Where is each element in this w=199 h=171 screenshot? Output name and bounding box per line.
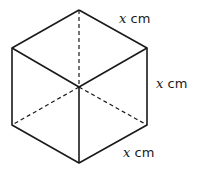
front-edge-left — [12, 48, 79, 87]
front-edge-right — [79, 48, 147, 87]
edge-label-right: x cm — [156, 77, 187, 90]
hidden-edge-left — [12, 87, 79, 125]
label-variable: x — [156, 76, 163, 91]
label-unit: cm — [134, 145, 154, 160]
edge-label-top: x cm — [119, 12, 150, 25]
label-unit: cm — [167, 76, 187, 91]
edge-label-bottom: x cm — [123, 146, 154, 159]
cube-diagram: x cm x cm x cm — [0, 0, 199, 171]
label-unit: cm — [130, 11, 150, 26]
hidden-edge-right — [79, 87, 147, 125]
label-variable: x — [119, 11, 126, 26]
label-variable: x — [123, 145, 130, 160]
